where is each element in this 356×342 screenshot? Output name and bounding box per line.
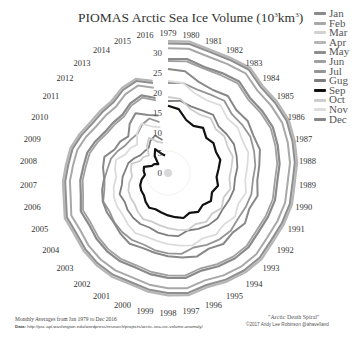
legend-swatch [314,41,326,44]
legend-swatch [314,108,326,111]
year-label: 1995 [226,291,243,301]
year-label: 2012 [57,73,74,83]
year-label: 2009 [24,134,41,144]
legend-swatch [314,31,326,34]
year-label: 1998 [160,308,177,318]
year-label: 1992 [277,245,294,255]
year-label: 1997 [183,306,200,316]
year-label: 2006 [24,202,41,212]
year-label: 2016 [137,30,154,40]
center-dot [164,169,172,177]
credit-title: "Arctic Death Spiral" [268,314,320,320]
legend-swatch [314,79,326,82]
year-label: 2008 [20,156,37,166]
year-label: 2004 [42,245,60,255]
legend-swatch [314,12,326,15]
series-line-sep [140,106,220,218]
year-label: 1996 [205,300,222,310]
legend-item-dec: Dec [314,115,349,125]
data-source-line: Data: http://psc.apl.washington.edu/word… [15,324,203,329]
chart-legend: JanFebMarAprMayJunJulGugSepOctNovDec [314,9,349,124]
year-label: 1987 [295,134,312,144]
year-label: 1984 [263,73,281,83]
year-label: 1993 [263,263,280,273]
radial-axis-ticks: 051015202530 [153,48,163,178]
year-label: 2015 [114,36,131,46]
year-label: 2011 [42,91,59,101]
year-label: 2013 [74,58,91,68]
year-label: 2005 [31,224,48,234]
year-label: 1979 [160,28,177,38]
year-label: 1980 [183,30,200,40]
year-label: 1985 [277,91,294,101]
series-line-oct [128,97,232,230]
year-label: 2000 [114,300,131,310]
year-label: 1991 [288,224,305,234]
legend-swatch [314,22,326,25]
year-label: 2014 [93,45,111,55]
chart-title: PIOMAS Arctic Sea Ice Volume (103km3) [78,10,303,26]
legend-swatch [314,60,326,63]
legend-swatch [314,89,326,92]
legend-swatch [314,99,326,102]
radial-tick-label: 20 [153,88,163,98]
year-label: 1982 [226,45,243,55]
polar-spiral-chart: 051015202530 197919801981198219831984198… [0,0,356,342]
credit-author: ©2017 Andy Lee Robinson @ahavelland [246,322,329,327]
year-label: 1986 [288,112,305,122]
year-label: 1990 [295,202,312,212]
legend-label: Dec [329,115,347,125]
year-label: 1981 [205,36,222,46]
data-url: http://psc.apl.washington.edu/wordpress/… [27,324,202,329]
year-label: 2003 [57,263,74,273]
year-label: 1999 [137,306,154,316]
radial-tick-label: 30 [153,48,163,58]
legend-swatch [314,51,326,54]
radial-tick-label: 10 [153,128,163,138]
radial-tick-label: 5 [158,148,163,158]
year-label: 1983 [246,58,263,68]
year-label: 1988 [299,156,316,166]
center-marker [146,151,190,195]
legend-swatch [314,118,326,121]
year-label: 2010 [31,112,48,122]
year-label: 2007 [20,180,37,190]
legend-swatch [314,70,326,73]
radial-tick-label: 25 [153,68,163,78]
year-label: 2002 [74,279,91,289]
year-label: 1989 [299,180,316,190]
source-note: Monthly Averages from Jan 1979 to Dec 20… [15,316,117,322]
radial-tick-label: 15 [153,108,163,118]
radial-tick-label: 0 [158,168,163,178]
year-label: 2001 [93,291,110,301]
year-label: 1994 [246,279,264,289]
